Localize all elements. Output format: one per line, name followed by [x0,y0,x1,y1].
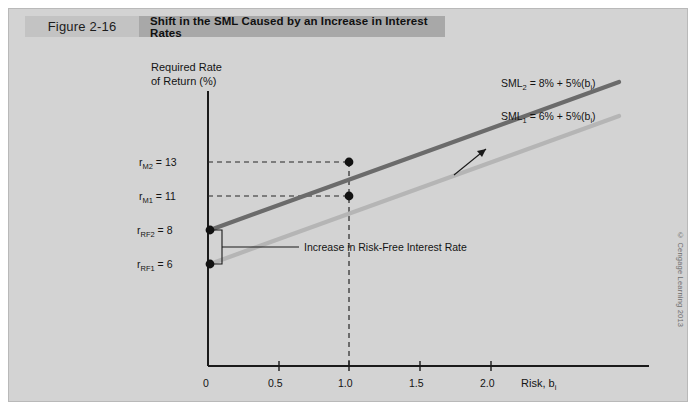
y-axis-title-line1: Required Rate [151,61,222,73]
marker-rrf2 [206,226,215,235]
copyright-notice: © Cengage Learning 2013 [676,231,685,327]
y-axis-label-rrf2: rRF2 = 8 [137,224,173,239]
marker-rm2 [345,158,354,167]
x-axis-title: Risk, bi [521,377,557,392]
figure-number: Figure 2-16 [25,16,139,37]
y-axis-label-rrf1: rRF1 = 6 [137,258,173,273]
shift-annotation-label: Increase in Risk-Free Interest Rate [304,241,467,253]
figure-title: Shift in the SML Caused by an Increase i… [139,16,445,37]
x-tick-label-1-0: 1.0 [338,377,353,389]
x-tick-label-1-5: 1.5 [409,377,424,389]
x-tick-label-origin: 0 [203,377,209,389]
marker-rm1 [345,192,354,201]
x-tick-label-0-5: 0.5 [268,377,283,389]
sml2-equation-label: SML2 = 8% + 5%(bi) [501,77,596,92]
figure-card: Figure 2-16 Shift in the SML Caused by a… [8,8,688,402]
y-axis-label-rm2: rM2 = 13 [139,156,177,171]
x-tick-label-2-0: 2.0 [480,377,495,389]
figure-title-bar: Figure 2-16 Shift in the SML Caused by a… [25,16,445,37]
chart-plot-area: Required Rate of Return (%) 0 0.5 1.0 1.… [9,39,687,399]
sml-chart-svg: Required Rate of Return (%) 0 0.5 1.0 1.… [9,39,687,399]
y-axis-title-line2: of Return (%) [151,75,216,87]
sml1-equation-label: SML1 = 6% + 5%(bi) [501,110,596,125]
marker-rrf1 [206,260,215,269]
sml2-line [210,82,619,230]
y-axis-label-rm1: rM1 = 11 [139,190,176,205]
